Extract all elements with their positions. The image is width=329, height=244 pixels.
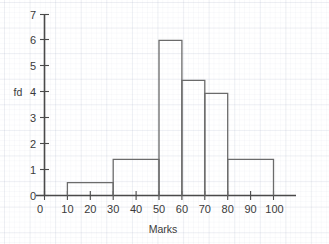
histogram-bar-30-50 xyxy=(113,159,159,195)
histogram-bar-50-60 xyxy=(159,40,182,195)
histogram-bar-70-80 xyxy=(205,93,228,195)
histogram-bar-80-100 xyxy=(228,159,274,195)
histogram-bars xyxy=(67,40,273,195)
histogram-plot-area: 0 1 2 3 4 5 6 7 fd 0 10 20 30 40 50 xyxy=(0,0,329,244)
x-tick-label-10: 10 xyxy=(61,203,73,215)
x-tick-label-20: 20 xyxy=(84,203,96,215)
y-tick-label-4: 4 xyxy=(30,86,36,98)
x-tick-label-90: 90 xyxy=(244,203,256,215)
x-tick-label-70: 70 xyxy=(199,203,211,215)
y-tick-label-7: 7 xyxy=(30,9,36,21)
y-tick-label-1: 1 xyxy=(30,164,36,176)
x-tick-label-50: 50 xyxy=(153,203,165,215)
x-axis-title: Marks xyxy=(149,223,178,235)
x-tick-label-40: 40 xyxy=(130,203,142,215)
x-tick-label-60: 60 xyxy=(176,203,188,215)
x-tick-label-0: 0 xyxy=(37,203,43,215)
y-tick-label-5: 5 xyxy=(30,60,36,72)
x-tick-label-80: 80 xyxy=(222,203,234,215)
histogram-bar-60-70 xyxy=(182,80,205,195)
x-tick-label-30: 30 xyxy=(107,203,119,215)
y-tick-label-0: 0 xyxy=(30,190,36,202)
y-tick-label-6: 6 xyxy=(30,34,36,46)
y-axis-title: fd xyxy=(14,86,23,98)
y-tick-label-3: 3 xyxy=(30,112,36,124)
histogram-chart: 0 1 2 3 4 5 6 7 fd 0 10 20 30 40 50 xyxy=(0,0,329,244)
y-tick-label-2: 2 xyxy=(30,138,36,150)
x-tick-label-100: 100 xyxy=(265,203,283,215)
